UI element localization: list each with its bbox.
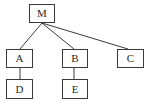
node-a-label: A [16, 53, 24, 64]
node-c: C [117, 49, 144, 68]
node-m: M [29, 4, 55, 23]
node-d-label: D [16, 84, 24, 95]
edge-m-b [42, 23, 74, 49]
node-e: E [62, 79, 88, 99]
node-a: A [6, 49, 33, 68]
node-d: D [6, 79, 33, 99]
node-b-label: B [71, 53, 78, 64]
node-e-label: E [72, 84, 79, 95]
node-b: B [62, 49, 88, 68]
node-m-label: M [37, 8, 47, 19]
tree-diagram: M A B C D E [0, 0, 147, 110]
edge-m-c [42, 23, 128, 49]
edge-m-a [20, 23, 42, 49]
node-c-label: C [127, 53, 134, 64]
